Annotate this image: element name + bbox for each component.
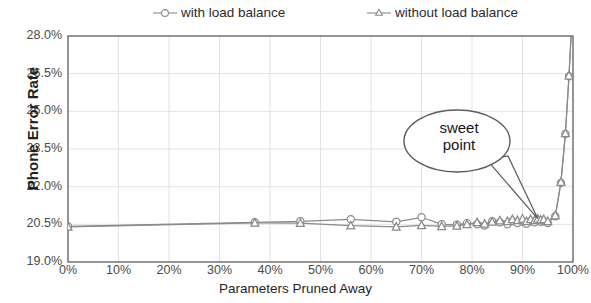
x-axis-tick-labels: 0%10%20%30%40%50%60%70%80%90%100% [0,263,591,283]
data-point-circle [418,214,425,221]
x-tick-label: 90% [498,263,548,277]
x-tick-label: 100% [548,263,591,277]
annotation-line-1: sweet [404,119,514,136]
x-tick-label: 60% [346,263,396,277]
x-tick-label: 10% [94,263,144,277]
callout-tail [487,156,538,219]
annotation-line-2: point [404,136,514,153]
x-tick-label: 80% [447,263,497,277]
series-group [64,0,573,230]
x-tick-label: 50% [296,263,346,277]
x-tick-label: 20% [144,263,194,277]
x-tick-label: 0% [43,263,93,277]
x-axis-title: Parameters Pruned Away [0,281,591,296]
x-tick-label: 30% [195,263,245,277]
x-tick-label: 40% [245,263,295,277]
y-axis-title: Phone Error Rate [24,19,41,239]
sweet-point-annotation-text: sweet point [404,119,514,153]
x-tick-label: 70% [397,263,447,277]
chart-figure: with load balance without load balance 1… [0,0,591,303]
